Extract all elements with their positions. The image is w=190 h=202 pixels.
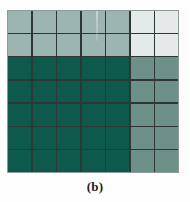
heatmap-border (7, 10, 179, 173)
heatmap-cell (131, 34, 154, 56)
heatmap-cell (155, 11, 178, 33)
heatmap-cell (155, 57, 178, 79)
heatmap-cell (106, 104, 129, 126)
heatmap-cell (33, 104, 56, 126)
heatmap-cell (131, 127, 154, 149)
figure-caption: (b) (0, 179, 190, 195)
heatmap-cell (82, 34, 105, 56)
heatmap-cell (106, 34, 129, 56)
heatmap-cell (106, 127, 129, 149)
heatmap-cell (131, 57, 154, 79)
heatmap-cell (57, 81, 80, 103)
heatmap-cell (57, 150, 80, 172)
heatmap-cell (106, 57, 129, 79)
heatmap-cell (33, 11, 56, 33)
heatmap-cell (8, 127, 31, 149)
heatmap-cell (155, 150, 178, 172)
heatmap-cell (155, 34, 178, 56)
heatmap-cell (82, 127, 105, 149)
heatmap-cell (8, 150, 31, 172)
heatmap-grid (8, 11, 178, 172)
heatmap-cell (82, 11, 105, 33)
heatmap-cell (8, 81, 31, 103)
heatmap-cell (33, 150, 56, 172)
heatmap-cell (57, 57, 80, 79)
figure-panel-b: (b) (0, 0, 190, 202)
heatmap-cell (82, 81, 105, 103)
heatmap-cell (57, 11, 80, 33)
heatmap-cell (106, 150, 129, 172)
heatmap-cell (33, 57, 56, 79)
heatmap-cell (57, 104, 80, 126)
heatmap-cell (33, 34, 56, 56)
heatmap-cell (106, 81, 129, 103)
heatmap-cell (131, 150, 154, 172)
heatmap-cell (33, 127, 56, 149)
heatmap-cell (82, 57, 105, 79)
heatmap-cell (155, 81, 178, 103)
heatmap-cell (8, 34, 31, 56)
heatmap-cell (131, 11, 154, 33)
heatmap-cell (33, 81, 56, 103)
heatmap-cell (131, 104, 154, 126)
heatmap-cell (82, 150, 105, 172)
heatmap-cell (57, 34, 80, 56)
heatmap-cell (57, 127, 80, 149)
heatmap-cell (131, 81, 154, 103)
heatmap-cell (8, 104, 31, 126)
heatmap-cell (155, 127, 178, 149)
heatmap-cell (8, 57, 31, 79)
heatmap-cell (155, 104, 178, 126)
heatmap-cell (82, 104, 105, 126)
heatmap-cell (106, 11, 129, 33)
page-margin (179, 8, 188, 176)
heatmap-cell (8, 11, 31, 33)
